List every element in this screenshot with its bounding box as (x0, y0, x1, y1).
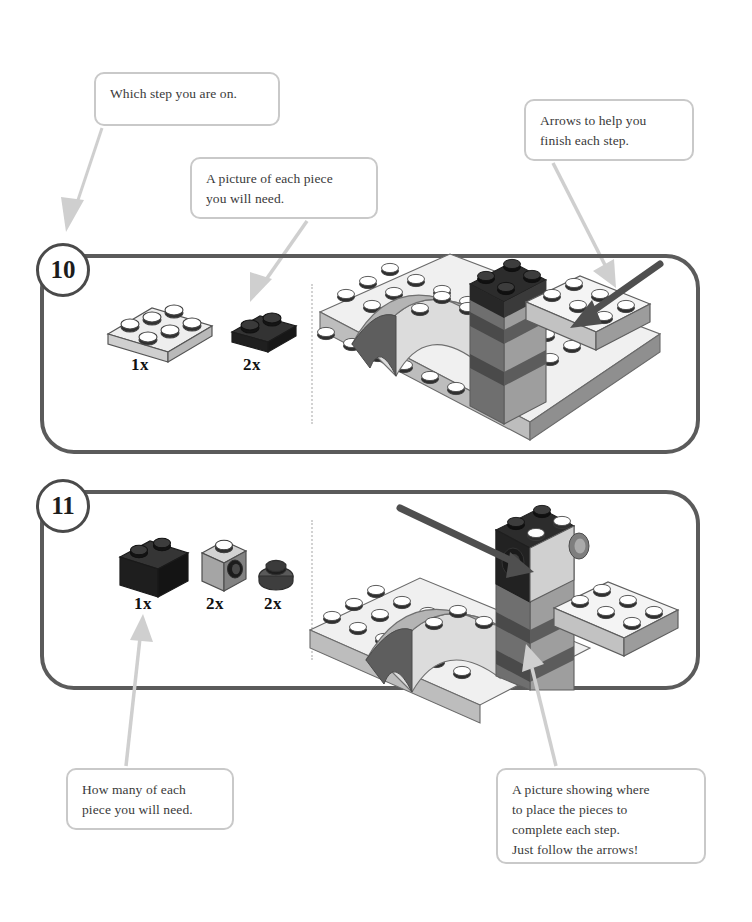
step-11-build-scene (330, 500, 710, 690)
callout-line: How many of each (82, 780, 218, 800)
step-number: 11 (51, 492, 75, 520)
callout-placement-picture: A picture showing where to place the pie… (496, 768, 706, 864)
callout-piece-picture: A picture of each piece you will need. (190, 157, 378, 219)
callout-line: to place the pieces to (512, 800, 690, 820)
callout-how-many: How many of each piece you will need. (66, 768, 234, 830)
instruction-page: Which step you are on. A picture of each… (0, 0, 752, 922)
step-10-part-1-quantity: 1x (115, 355, 165, 375)
callout-line: you will need. (206, 189, 362, 209)
step-number: 10 (51, 256, 76, 284)
callout-line: A picture showing where (512, 780, 690, 800)
callout-line: complete each step. (512, 820, 690, 840)
step-11-part-2-quantity: 2x (190, 594, 240, 614)
callout-which-step: Which step you are on. (94, 72, 280, 126)
step-10-badge: 10 (36, 243, 90, 297)
step-10-part-2-quantity: 2x (227, 355, 277, 375)
callout-line: finish each step. (540, 131, 678, 151)
step-11-part-brick-1x2-dark (112, 533, 202, 595)
step-10-build-scene (330, 272, 710, 452)
step-10-part-plate-1x2-dark (226, 302, 312, 356)
step-10-part-plate-2x3-light (100, 296, 220, 358)
step-11-part-1-quantity: 1x (118, 594, 168, 614)
callout-line: Which step you are on. (110, 84, 264, 104)
callout-line: piece you will need. (82, 800, 218, 820)
step-11-badge: 11 (36, 479, 90, 533)
step-11-part-3-quantity: 2x (248, 594, 298, 614)
callout-line: A picture of each piece (206, 169, 362, 189)
callout-line: Arrows to help you (540, 111, 678, 131)
callout-line: Just follow the arrows! (512, 840, 690, 860)
callout-arrows-help: Arrows to help you finish each step. (524, 99, 694, 161)
step-11-part-round-plate (248, 550, 310, 596)
